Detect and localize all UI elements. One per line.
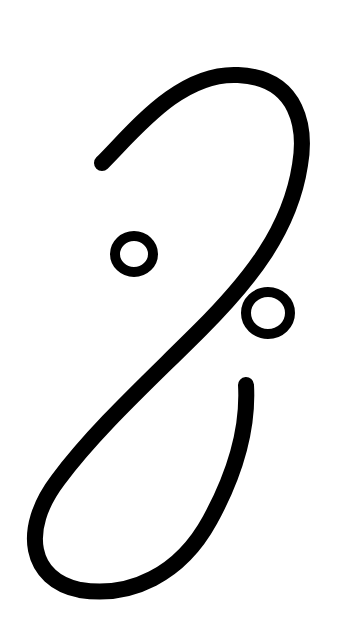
glyph-canvas: Black calligraphic glyph: an S / integra…	[0, 0, 355, 632]
calligraphic-glyph-icon	[0, 0, 355, 632]
circle-right	[246, 292, 290, 334]
circle-upper-left	[115, 236, 153, 272]
